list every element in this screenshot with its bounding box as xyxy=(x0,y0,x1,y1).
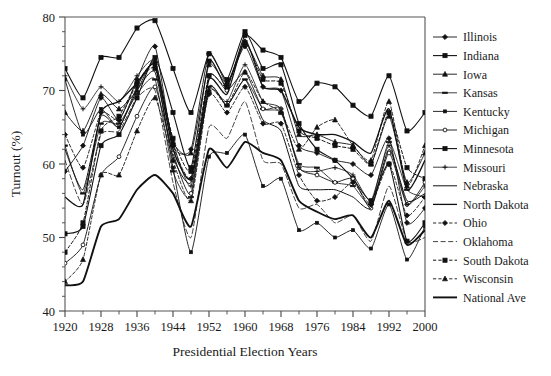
legend-label: Indiana xyxy=(463,49,500,63)
data-point-marker xyxy=(315,81,319,85)
data-point-marker xyxy=(135,114,139,118)
data-point-marker xyxy=(153,85,157,89)
data-point-marker xyxy=(351,185,356,186)
data-point-marker xyxy=(99,55,103,59)
data-point-marker xyxy=(117,55,121,59)
data-point-marker xyxy=(443,128,447,132)
data-point-marker xyxy=(261,66,265,70)
x-tick-label: 1960 xyxy=(233,320,258,334)
legend-label: Kentucky xyxy=(463,105,510,119)
data-point-marker xyxy=(189,192,193,196)
data-point-marker xyxy=(81,221,85,225)
data-point-marker xyxy=(443,147,447,151)
data-point-marker xyxy=(207,59,211,63)
data-point-marker xyxy=(243,41,247,45)
data-point-marker xyxy=(99,129,103,133)
legend-label: Wisconsin xyxy=(463,272,513,286)
data-point-marker xyxy=(262,185,265,188)
data-point-marker xyxy=(135,81,139,85)
data-point-marker xyxy=(261,107,265,111)
data-point-marker xyxy=(333,144,337,148)
legend-label: Oklahoma xyxy=(463,235,514,249)
legend-label: Michigan xyxy=(463,123,509,137)
x-tick-label: 1928 xyxy=(89,320,114,334)
y-tick-label: 70 xyxy=(43,84,56,98)
x-tick-label: 1992 xyxy=(377,320,402,334)
data-point-marker xyxy=(190,251,193,254)
data-point-marker xyxy=(135,26,139,30)
data-point-marker xyxy=(171,66,175,70)
legend-label: National Ave xyxy=(463,291,526,305)
data-point-marker xyxy=(81,193,86,194)
x-tick-label: 2000 xyxy=(413,320,438,334)
data-point-marker xyxy=(117,155,121,159)
data-point-marker xyxy=(207,52,211,56)
data-point-marker xyxy=(315,147,319,151)
data-point-marker xyxy=(207,74,211,78)
data-point-marker xyxy=(117,114,121,118)
y-tick-label: 50 xyxy=(43,231,56,245)
data-point-marker xyxy=(81,243,85,247)
data-point-marker xyxy=(370,247,373,250)
data-point-marker xyxy=(405,129,409,133)
chart-figure: 4050607080192019281936194419521960196819… xyxy=(0,0,551,376)
legend-label: Iowa xyxy=(463,68,488,82)
data-point-marker xyxy=(279,81,283,85)
data-point-marker xyxy=(334,236,337,239)
data-point-marker xyxy=(387,74,391,78)
y-tick-label: 40 xyxy=(43,305,56,319)
y-axis-title: Turnout (%) xyxy=(8,131,23,198)
data-point-marker xyxy=(171,110,175,114)
data-point-marker xyxy=(315,167,320,168)
data-point-marker xyxy=(387,141,392,142)
data-point-marker xyxy=(351,103,355,107)
data-point-marker xyxy=(243,33,247,37)
turnout-line-chart: 4050607080192019281936194419521960196819… xyxy=(0,0,551,376)
data-point-marker xyxy=(443,54,447,58)
data-point-marker xyxy=(387,110,391,114)
data-point-marker xyxy=(261,48,265,52)
data-point-marker xyxy=(153,19,157,23)
x-tick-label: 1936 xyxy=(125,320,150,334)
data-point-marker xyxy=(405,166,409,170)
data-point-marker xyxy=(369,114,373,118)
x-axis-title: Presidential Election Years xyxy=(172,344,317,359)
x-tick-label: 1952 xyxy=(197,320,222,334)
data-point-marker xyxy=(225,85,229,89)
data-point-marker xyxy=(244,133,247,136)
legend-label: North Dakota xyxy=(463,198,529,212)
data-point-marker xyxy=(444,110,447,113)
data-point-marker xyxy=(172,166,175,169)
data-point-marker xyxy=(280,177,283,180)
legend-label: Ohio xyxy=(463,216,487,230)
data-point-marker xyxy=(99,144,103,148)
data-point-marker xyxy=(316,221,319,224)
y-tick-label: 60 xyxy=(43,158,56,172)
data-point-marker xyxy=(117,133,121,137)
data-point-marker xyxy=(333,180,337,184)
data-point-marker xyxy=(279,63,283,67)
legend-label: Kansas xyxy=(463,86,498,100)
data-point-marker xyxy=(298,229,301,232)
data-point-marker xyxy=(333,158,337,162)
legend-label: Nebraska xyxy=(463,179,509,193)
legend-label: Illinois xyxy=(463,30,497,44)
data-point-marker xyxy=(297,129,301,133)
data-point-marker xyxy=(443,258,447,262)
data-point-marker xyxy=(81,96,85,100)
data-point-marker xyxy=(443,92,448,93)
data-point-marker xyxy=(352,229,355,232)
data-point-marker xyxy=(315,136,319,140)
data-point-marker xyxy=(279,55,283,59)
data-point-marker xyxy=(189,110,193,114)
legend-label: Minnesota xyxy=(463,142,514,156)
legend-label: South Dakota xyxy=(463,254,529,268)
x-tick-label: 1968 xyxy=(269,320,294,334)
x-tick-label: 1984 xyxy=(341,320,367,334)
data-point-marker xyxy=(82,133,85,136)
data-point-marker xyxy=(171,136,175,140)
x-tick-label: 1944 xyxy=(161,320,187,334)
x-tick-label: 1920 xyxy=(53,320,78,334)
data-point-marker xyxy=(261,77,265,81)
data-point-marker xyxy=(333,85,337,89)
